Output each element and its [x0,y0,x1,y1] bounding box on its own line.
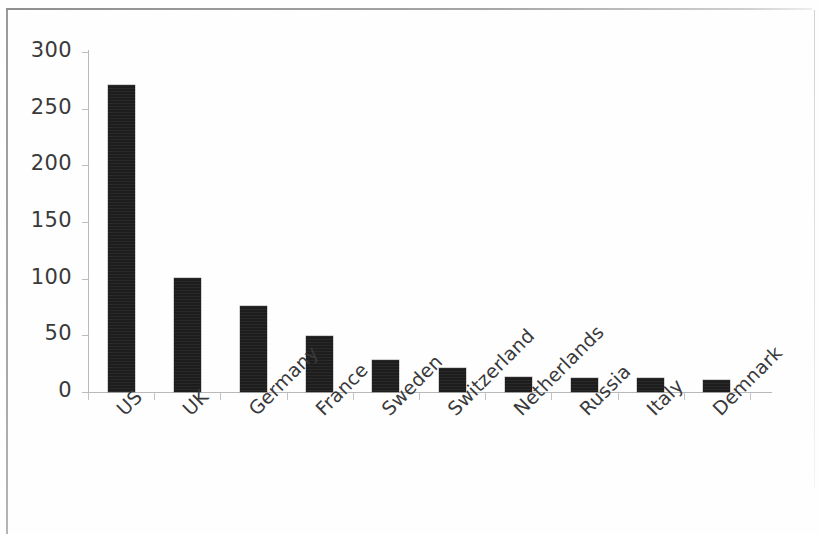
x-axis-tick [154,393,155,400]
y-axis-tick-label: 100 [0,265,72,289]
y-axis-tick [82,279,89,280]
chart-page: 050100150200250300 USUKGermanyFranceSwed… [0,0,819,534]
x-axis-tick [485,393,486,400]
bar [108,85,135,392]
x-axis-tick [220,393,221,400]
bar-chart-plot-area: 050100150200250300 USUKGermanyFranceSwed… [0,0,819,534]
x-axis-tick [551,393,552,400]
x-axis-tick [684,393,685,400]
y-axis-tick [82,52,89,53]
y-axis-tick-label: 300 [0,38,72,62]
bar [174,278,201,392]
y-axis-tick [82,165,89,166]
y-axis-tick [82,222,89,223]
bar [240,306,267,392]
x-axis-tick [353,393,354,400]
x-axis-tick [750,393,751,400]
y-axis-tick-label: 50 [0,321,72,345]
x-axis-tick [88,393,89,400]
x-axis-tick [419,393,420,400]
y-axis-tick [82,109,89,110]
y-axis-tick [82,335,89,336]
y-axis-tick-label: 150 [0,208,72,232]
y-axis-tick-label: 200 [0,151,72,175]
x-axis-tick [618,393,619,400]
x-axis-tick [287,393,288,400]
y-axis-tick-label: 250 [0,95,72,119]
y-axis-tick-label: 0 [0,378,72,402]
